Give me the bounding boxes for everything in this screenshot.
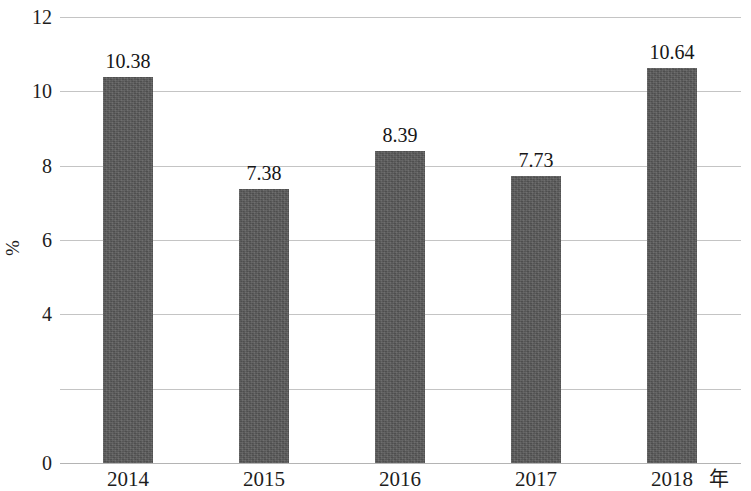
y-axis-tick-label: 0 bbox=[6, 453, 52, 473]
y-axis-tick-labels: 12108640 bbox=[0, 0, 52, 491]
bar[interactable] bbox=[511, 176, 561, 463]
bar-chart: % 12108640 10.387.388.397.7310.64 201420… bbox=[0, 0, 751, 491]
bar[interactable] bbox=[647, 68, 697, 463]
y-axis-tick-label: 6 bbox=[6, 230, 52, 250]
bar-value-label: 10.38 bbox=[60, 50, 196, 72]
bar[interactable] bbox=[375, 151, 425, 463]
plot-area: 10.387.388.397.7310.64 bbox=[60, 0, 741, 491]
x-axis-title: 年 bbox=[709, 466, 749, 491]
bar-value-label: 8.39 bbox=[332, 124, 468, 146]
bar[interactable] bbox=[239, 189, 289, 463]
bar-value-label: 7.73 bbox=[468, 149, 604, 171]
y-axis-tick-label: 8 bbox=[6, 156, 52, 176]
x-axis-tick-label: 2016 bbox=[332, 466, 468, 491]
bar-group: 10.38 bbox=[60, 0, 196, 491]
bar-group: 7.38 bbox=[196, 0, 332, 491]
x-axis-tick-label: 2017 bbox=[468, 466, 604, 491]
x-axis-tick-labels: 20142015201620172018 bbox=[60, 464, 741, 491]
bar[interactable] bbox=[103, 77, 153, 463]
bar-group: 8.39 bbox=[332, 0, 468, 491]
bar-group: 10.64 bbox=[604, 0, 740, 491]
y-axis-tick-label: 12 bbox=[6, 7, 52, 27]
x-axis-tick-label: 2015 bbox=[196, 466, 332, 491]
y-axis-tick-label: 10 bbox=[6, 81, 52, 101]
x-axis-tick-label: 2014 bbox=[60, 466, 196, 491]
bar-value-label: 7.38 bbox=[196, 162, 332, 184]
bar-group: 7.73 bbox=[468, 0, 604, 491]
y-axis-tick-label: 4 bbox=[6, 304, 52, 324]
bar-value-label: 10.64 bbox=[604, 41, 740, 63]
